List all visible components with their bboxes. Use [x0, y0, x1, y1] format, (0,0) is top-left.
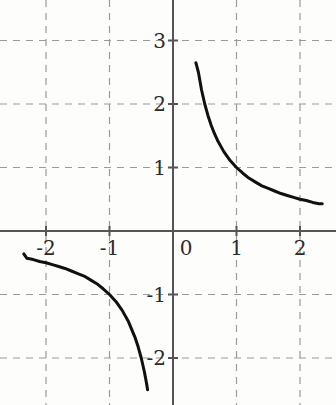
plot-canvas [0, 0, 336, 405]
y-tick-label: 3 [153, 31, 166, 51]
x-tick-label: -1 [100, 238, 119, 258]
y-tick-label: 1 [153, 158, 166, 178]
x-tick-label: 2 [294, 238, 307, 258]
x-tick-label: -2 [36, 238, 55, 258]
y-tick-label: -1 [147, 285, 166, 305]
x-tick-label: 0 [180, 238, 193, 258]
x-tick-label: 1 [230, 238, 243, 258]
y-tick-label: 2 [153, 94, 166, 114]
branch-upper-right [196, 63, 322, 204]
axis-layer [0, 0, 336, 405]
branch-lower-left [24, 254, 148, 390]
grid-layer [0, 0, 336, 405]
y-tick-label: -2 [147, 348, 166, 368]
graph-figure: -2-1012321-1-2 [0, 0, 336, 405]
